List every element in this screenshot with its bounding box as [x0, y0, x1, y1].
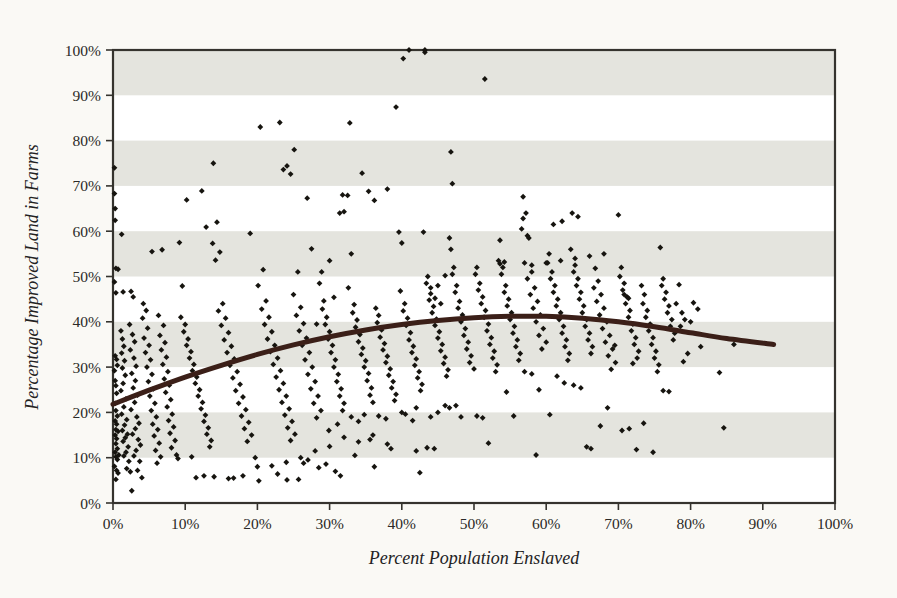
- x-tick-label: 100%: [817, 515, 853, 532]
- x-tick-label: 80%: [676, 515, 705, 532]
- y-tick-label: 70%: [73, 177, 102, 194]
- x-tick-label: 60%: [532, 515, 561, 532]
- scatter-chart: 0%10%20%30%40%50%60%70%80%90%100% 0%10%2…: [0, 0, 897, 598]
- y-tick-label: 80%: [73, 132, 102, 149]
- x-tick-label: 20%: [243, 515, 272, 532]
- shaded-band: [113, 322, 835, 367]
- shaded-band: [113, 141, 835, 186]
- y-tick-label: 60%: [73, 223, 102, 240]
- shaded-band: [113, 50, 835, 95]
- y-tick-label: 20%: [73, 404, 102, 421]
- x-tick-label: 90%: [749, 515, 778, 532]
- y-tick-label: 40%: [73, 313, 102, 330]
- y-tick-label: 90%: [73, 87, 102, 104]
- x-tick-label: 10%: [171, 515, 200, 532]
- x-tick-label: 30%: [315, 515, 344, 532]
- x-tick-label: 70%: [604, 515, 633, 532]
- y-tick-label: 30%: [73, 359, 102, 376]
- shaded-band: [113, 231, 835, 276]
- y-axis-title: Percentage Improved Land in Farms: [22, 144, 42, 411]
- shaded-band: [113, 412, 835, 457]
- y-tick-label: 100%: [65, 42, 101, 59]
- y-tick-label: 0%: [80, 495, 101, 512]
- x-tick-label: 40%: [388, 515, 417, 532]
- x-tick-label: 0%: [103, 515, 124, 532]
- x-axis-title: Percent Population Enslaved: [368, 548, 580, 568]
- x-tick-label: 50%: [460, 515, 489, 532]
- chart-page: 0%10%20%30%40%50%60%70%80%90%100% 0%10%2…: [0, 0, 897, 598]
- y-tick-label: 50%: [73, 268, 102, 285]
- y-tick-label: 10%: [73, 449, 102, 466]
- y-axis-shaded-bands: [113, 50, 835, 503]
